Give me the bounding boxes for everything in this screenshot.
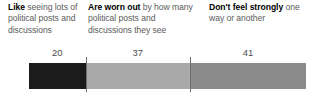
category-label-1: Are worn out by how many political posts…	[88, 2, 200, 36]
category-label-2: Don't feel strongly one way or another	[209, 2, 311, 25]
bar-segment-no-strong-feeling	[190, 63, 306, 89]
category-label-0-lead: Like	[8, 2, 25, 12]
stacked-bar-figure: Like seeing lots of political posts and …	[0, 0, 313, 92]
value-label-0: 20	[29, 46, 86, 59]
bar-segment-like	[29, 63, 86, 89]
bar-segment-worn-out	[86, 63, 191, 89]
segment-divider-tick-1	[86, 57, 87, 92]
stacked-bar	[29, 63, 306, 89]
category-label-1-lead: Are worn out	[88, 2, 140, 12]
category-label-2-lead: Don't feel strongly	[209, 2, 283, 12]
value-label-2: 41	[190, 46, 306, 59]
segment-divider-tick-2	[190, 57, 191, 92]
value-label-1: 37	[86, 46, 191, 59]
category-labels: Like seeing lots of political posts and …	[0, 0, 313, 45]
category-label-0: Like seeing lots of political posts and …	[8, 2, 86, 36]
value-labels: 20 37 41	[0, 46, 313, 61]
